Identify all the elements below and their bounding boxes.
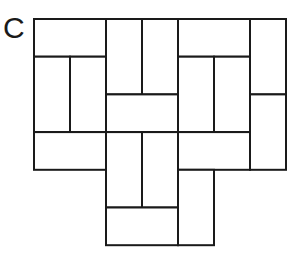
domino-tile-vertical: [106, 19, 142, 94]
domino-tile-vertical: [70, 57, 106, 132]
domino-tiling-diagram: [0, 0, 290, 258]
domino-tile-vertical: [250, 94, 286, 169]
domino-tile-vertical: [214, 57, 250, 132]
domino-tile-vertical: [142, 19, 178, 94]
domino-tile-vertical: [34, 57, 70, 132]
domino-tile-horizontal: [106, 94, 178, 132]
domino-tile-vertical: [250, 19, 286, 94]
domino-tile-vertical: [178, 170, 214, 245]
domino-tile-horizontal: [178, 19, 250, 57]
domino-tile-horizontal: [178, 132, 250, 170]
domino-tile-vertical: [178, 57, 214, 132]
domino-tile-horizontal: [34, 132, 106, 170]
domino-tile-vertical: [106, 132, 142, 207]
domino-tile-horizontal: [34, 19, 106, 57]
domino-tile-vertical: [142, 132, 178, 207]
domino-tile-horizontal: [106, 208, 178, 246]
